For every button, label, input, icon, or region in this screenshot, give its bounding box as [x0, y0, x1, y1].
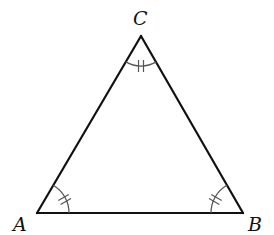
angle-arc-c [126, 62, 156, 66]
angle-mark-a [53, 185, 71, 213]
side-ca [37, 36, 141, 213]
angle-mark-b [209, 185, 227, 213]
angle-mark-c [126, 60, 156, 72]
triangle-diagram: A B C [0, 0, 274, 235]
vertex-labels: A B C [11, 7, 262, 235]
vertex-label-b: B [247, 213, 262, 235]
vertex-label-c: C [133, 7, 148, 29]
vertex-label-a: A [11, 213, 27, 235]
triangle-sides [37, 36, 243, 213]
